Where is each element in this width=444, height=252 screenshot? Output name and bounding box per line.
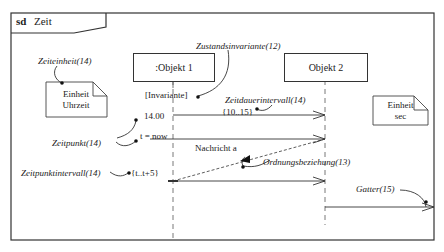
- lifeline-label: :Objekt 1: [155, 62, 193, 73]
- annotation-zeitdauerintervall: Zeitdauerintervall(14): [225, 95, 306, 105]
- note-line: Uhrzeit: [63, 100, 90, 111]
- annotation-zustandsinvariante: Zustandsinvariante(12): [196, 41, 281, 51]
- lifeline-label: Objekt 2: [309, 62, 344, 73]
- frame-kind: sd: [16, 15, 26, 27]
- note-line: Einheit: [63, 89, 89, 100]
- frame-name: Zeit: [34, 15, 52, 27]
- lifeline-head-objekt-1[interactable]: :Objekt 1: [133, 53, 215, 82]
- annotation-zeitpunkt: Zeitpunkt(14): [52, 138, 101, 148]
- time-interval-constraint: {t..t+5}: [131, 168, 159, 178]
- note-line: Einheit: [388, 100, 414, 111]
- time-observation: t = now: [140, 131, 168, 141]
- diagram-canvas: [0, 0, 444, 252]
- annotation-zeitpunktintervall: Zeitpunktintervall(14): [21, 168, 100, 178]
- time-value: 14.00: [144, 111, 164, 121]
- note-einheit-uhrzeit[interactable]: Einheit Uhrzeit: [46, 82, 106, 117]
- annotation-zeiteinheit: Zeiteinheit(14): [38, 56, 92, 66]
- note-line: sec: [395, 111, 407, 122]
- annotation-gatter: Gatter(15): [356, 184, 395, 194]
- duration-constraint: {10..15}: [222, 107, 253, 117]
- lifeline-head-objekt-2[interactable]: Objekt 2: [284, 53, 368, 82]
- message-label-nachricht-a: Nachricht a: [195, 143, 237, 153]
- state-invariant: [Invariante]: [145, 90, 187, 100]
- note-einheit-sec[interactable]: Einheit sec: [373, 96, 428, 125]
- annotation-ordnungsbeziehung: Ordnungsbeziehung(13): [263, 157, 350, 167]
